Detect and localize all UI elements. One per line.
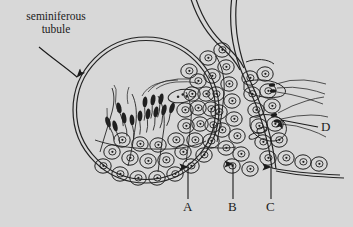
label-b: B — [228, 200, 237, 215]
right-sertoli-bodies — [244, 60, 286, 142]
label-c: C — [266, 200, 275, 215]
fork-cell-cluster — [200, 43, 258, 176]
label-a: A — [183, 200, 192, 215]
mature-sperm-d — [269, 80, 328, 137]
label-d: D — [321, 120, 330, 135]
right-tubule-cells — [242, 67, 327, 171]
arrow-seminiferous-tubule — [39, 47, 77, 77]
label-seminiferous-tubule: seminiferous tubule — [8, 10, 104, 36]
seminiferous-tubule-figure: seminiferous tubule A B C D — [0, 0, 353, 227]
